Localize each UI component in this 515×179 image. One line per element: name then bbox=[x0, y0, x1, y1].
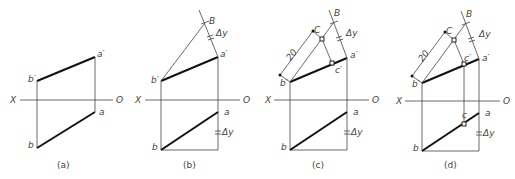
label-b: b bbox=[28, 140, 34, 150]
label-C: C bbox=[314, 25, 321, 35]
label-a: a bbox=[485, 108, 491, 118]
label-dy-bottom: Δy bbox=[482, 128, 495, 138]
label-a: a bbox=[99, 107, 105, 117]
label-a-prime: a′ bbox=[482, 53, 490, 63]
label-dy-top: Δy bbox=[345, 28, 358, 38]
label-c: c bbox=[462, 110, 467, 120]
dimension-arrow bbox=[279, 74, 282, 77]
axis-label-x: X bbox=[134, 95, 142, 105]
axis-label-x: X bbox=[9, 95, 17, 105]
caption-a: (a) bbox=[57, 160, 70, 170]
label-dy-bottom: Δy bbox=[221, 127, 234, 137]
panel-d: X O 20 B C c′ c Δy Δy b′ a′ a b (d) bbox=[395, 9, 510, 170]
label-a-prime: a′ bbox=[220, 49, 228, 59]
point-C bbox=[452, 38, 456, 42]
label-b: b bbox=[152, 142, 158, 152]
top-projection-line bbox=[290, 112, 347, 150]
label-b-prime: b′ bbox=[28, 74, 36, 84]
label-dy-bottom: Δy bbox=[350, 127, 363, 137]
label-a: a bbox=[224, 107, 230, 117]
caption-d: (d) bbox=[444, 160, 457, 170]
axis-label-o: O bbox=[503, 96, 510, 106]
label-B: B bbox=[334, 8, 340, 18]
axis-label-o: O bbox=[372, 95, 379, 105]
point-C bbox=[320, 37, 324, 41]
front-projection-line bbox=[161, 57, 218, 81]
front-projection-line bbox=[37, 57, 95, 81]
label-a-prime: a′ bbox=[97, 49, 105, 59]
point-c-prime bbox=[330, 61, 334, 65]
label-a-prime: a′ bbox=[350, 50, 358, 60]
label-b: b bbox=[413, 143, 419, 153]
axis-label-x: X bbox=[395, 96, 403, 106]
construction-line-c bbox=[322, 39, 332, 63]
label-dim: 20 bbox=[416, 48, 431, 63]
label-dy-top: Δy bbox=[478, 29, 491, 39]
label-c-prime: c′ bbox=[464, 53, 471, 63]
caption-b: (b) bbox=[183, 160, 196, 170]
panel-b: X O B Δy Δy b′ a′ a b (b) bbox=[134, 10, 250, 170]
axis-label-x: X bbox=[264, 95, 272, 105]
label-b-prime: b′ bbox=[280, 78, 288, 88]
caption-c: (c) bbox=[312, 160, 324, 170]
axis-label-o: O bbox=[116, 95, 123, 105]
panel-c: X O 20 B C c′ Δy Δy b′ a′ a b (c) bbox=[264, 8, 379, 170]
label-c-prime: c′ bbox=[335, 65, 342, 75]
top-projection-line bbox=[422, 113, 479, 151]
label-b-prime: b′ bbox=[151, 75, 159, 85]
label-a: a bbox=[353, 107, 359, 117]
panel-a: X O b′ a′ a b (a) bbox=[9, 49, 123, 170]
label-dy-top: Δy bbox=[215, 28, 228, 38]
top-projection-line bbox=[37, 112, 95, 148]
projection-diagram: X O b′ a′ a b (a) X O B Δy Δy b′ a′ a b bbox=[0, 0, 515, 179]
construction-line-c bbox=[454, 40, 464, 64]
dimension-arrow bbox=[411, 75, 414, 78]
label-B: B bbox=[209, 16, 215, 26]
label-b: b bbox=[281, 142, 287, 152]
label-dim: 20 bbox=[284, 47, 299, 62]
axis-label-o: O bbox=[243, 95, 250, 105]
point-c bbox=[462, 122, 466, 126]
label-b-prime: b′ bbox=[412, 79, 420, 89]
label-B: B bbox=[466, 9, 472, 19]
top-projection-line bbox=[161, 112, 218, 150]
label-C: C bbox=[446, 26, 453, 36]
